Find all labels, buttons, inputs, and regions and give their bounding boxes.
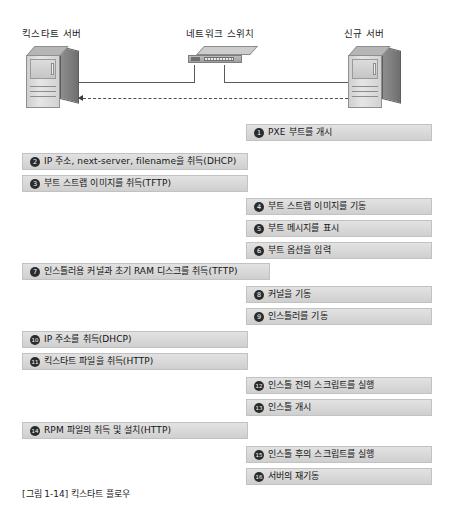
step-number-badge: 15: [254, 450, 264, 460]
step-label: 인스톨 후의 스크립트를 실행: [268, 450, 374, 459]
link-switch-to-new-server: [224, 82, 348, 83]
step-number-badge: 3: [30, 179, 40, 189]
step-box: 10IP 주소를 취득(DHCP): [22, 331, 248, 348]
step-box: 8커널을 기동: [246, 286, 432, 303]
step-number-badge: 5: [254, 224, 264, 234]
step-number-badge: 6: [254, 246, 264, 256]
step-label: PXE 부트를 개시: [268, 128, 332, 137]
step-label: IP 주소, next-server, filename을 취득(DHCP): [44, 157, 236, 166]
network-switch-icon: [188, 46, 250, 66]
device-label-network-switch: 네트워크 스위치: [186, 26, 254, 40]
step-label: 인스톨러용 커널과 초기 RAM 디스크를 취득(TFTP): [44, 267, 238, 276]
step-number-badge: 13: [254, 403, 264, 413]
server-vent-slot: [30, 96, 56, 97]
step-box: 7인스톨러용 커널과 초기 RAM 디스크를 취득(TFTP): [22, 263, 270, 280]
kickstart-flow-diagram: 킥스타트 서버 네트워크 스위치 신규 서버 1PXE: [0, 0, 454, 526]
kickstart-server-icon: [26, 46, 86, 108]
figure-caption: [그림 1-14] 킥스타트 플로우: [22, 487, 130, 500]
step-label: 부트 옵션을 입력: [268, 246, 331, 255]
step-box: 12인스톨 전의 스크립트를 실행: [246, 377, 432, 394]
step-box: 2IP 주소, next-server, filename을 취득(DHCP): [22, 153, 248, 170]
step-label: IP 주소를 취득(DHCP): [44, 335, 132, 344]
step-box: 15인스톨 후의 스크립트를 실행: [246, 446, 432, 463]
step-number-badge: 7: [30, 267, 40, 277]
switch-top-face: [196, 46, 258, 55]
step-number-badge: 16: [254, 472, 264, 482]
step-box: 14RPM 파일의 취득 및 설치(HTTP): [22, 422, 248, 439]
step-label: 인스톨 전의 스크립트를 실행: [268, 381, 374, 390]
step-label: 부트 스트랩 이미지를 취득(TFTP): [44, 179, 171, 188]
step-number-badge: 1: [254, 128, 264, 138]
step-box: 13인스톨 개시: [246, 399, 432, 416]
step-box: 3부트 스트랩 이미지를 취득(TFTP): [22, 175, 248, 192]
step-label: 킥스타트 파일을 취득(HTTP): [44, 357, 153, 366]
step-label: 인스톨러를 기동: [268, 312, 328, 321]
step-label: 부트 스트랩 이미지를 기동: [268, 202, 366, 211]
device-label-new-server: 신규 서버: [344, 26, 385, 40]
server-vent-slot: [352, 86, 378, 87]
step-box: 1PXE 부트를 개시: [246, 124, 432, 141]
server-side-panel: [382, 46, 401, 104]
step-box: 16서버의 재기동: [246, 468, 432, 485]
server-side-panel: [60, 46, 79, 104]
step-number-badge: 14: [30, 426, 40, 436]
switch-uplink-leg-left: [194, 65, 195, 83]
step-box: 4부트 스트랩 이미지를 기동: [246, 198, 432, 215]
dashed-path-arrow-icon: [78, 95, 83, 101]
switch-status-led: [191, 57, 200, 61]
switch-port-row: [204, 57, 234, 61]
server-vent-slot: [352, 96, 378, 97]
new-server-icon: [348, 46, 408, 108]
step-box: 6부트 옵션을 입력: [246, 242, 432, 259]
step-number-badge: 12: [254, 381, 264, 391]
step-number-badge: 2: [30, 157, 40, 167]
step-number-badge: 11: [30, 357, 40, 367]
step-number-badge: 8: [254, 290, 264, 300]
switch-uplink-leg-right: [224, 65, 225, 83]
step-label: 서버의 재기동: [268, 472, 320, 481]
step-label: 부트 메시지를 표시: [268, 224, 339, 233]
server-drive-bay: [51, 63, 54, 75]
step-box: 5부트 메시지를 표시: [246, 220, 432, 237]
step-box: 11킥스타트 파일을 취득(HTTP): [22, 353, 248, 370]
step-number-badge: 9: [254, 312, 264, 322]
step-number-badge: 4: [254, 202, 264, 212]
step-label: 커널을 기동: [268, 290, 311, 299]
server-vent-slot: [352, 91, 378, 92]
device-label-kickstart-server: 킥스타트 서버: [22, 26, 81, 40]
dashed-return-path: [83, 98, 348, 99]
step-label: 인스톨 개시: [268, 403, 311, 412]
step-label: RPM 파일의 취득 및 설치(HTTP): [44, 426, 171, 435]
step-box: 9인스톨러를 기동: [246, 308, 432, 325]
step-number-badge: 10: [30, 335, 40, 345]
server-drive-bay: [373, 63, 376, 75]
server-vent-slot: [30, 86, 56, 87]
server-vent-slot: [30, 91, 56, 92]
link-kickstart-to-switch: [79, 82, 194, 83]
